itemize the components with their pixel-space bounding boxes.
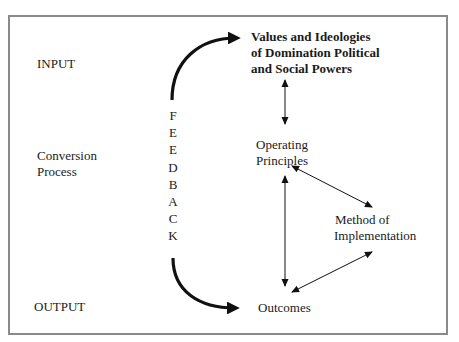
- arrows-layer: [0, 0, 459, 342]
- arrow-method-outcomes: [292, 252, 372, 292]
- arrow-principles-method: [292, 166, 372, 207]
- feedback-arrow-to-values: [172, 38, 236, 100]
- feedback-arrow-to-outcomes: [173, 258, 235, 308]
